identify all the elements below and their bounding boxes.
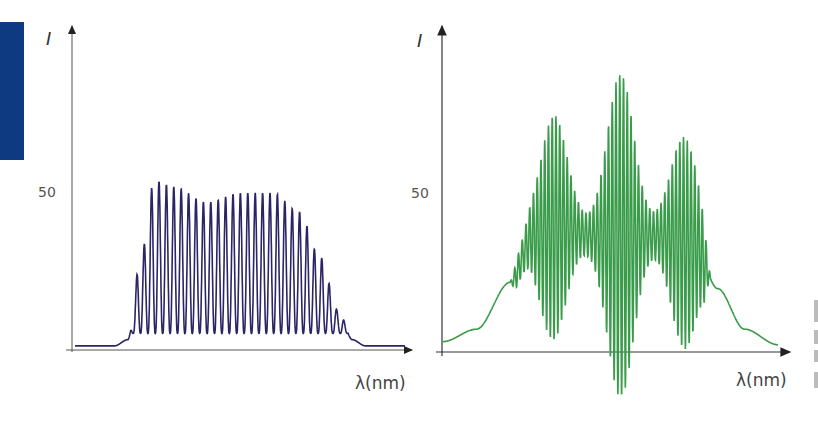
left-spectrum-curve	[75, 182, 405, 346]
left-y-tick-50: 50	[38, 184, 56, 200]
right-x-axis-label: λ(nm)	[736, 370, 787, 390]
plots-canvas	[0, 0, 818, 422]
left-x-axis-label: λ(nm)	[355, 373, 406, 393]
left-y-axis-label: I	[46, 28, 51, 49]
right-spectrum-curve	[443, 75, 778, 394]
right-y-axis-label: I	[417, 30, 422, 51]
right-y-tick-50: 50	[411, 185, 429, 201]
